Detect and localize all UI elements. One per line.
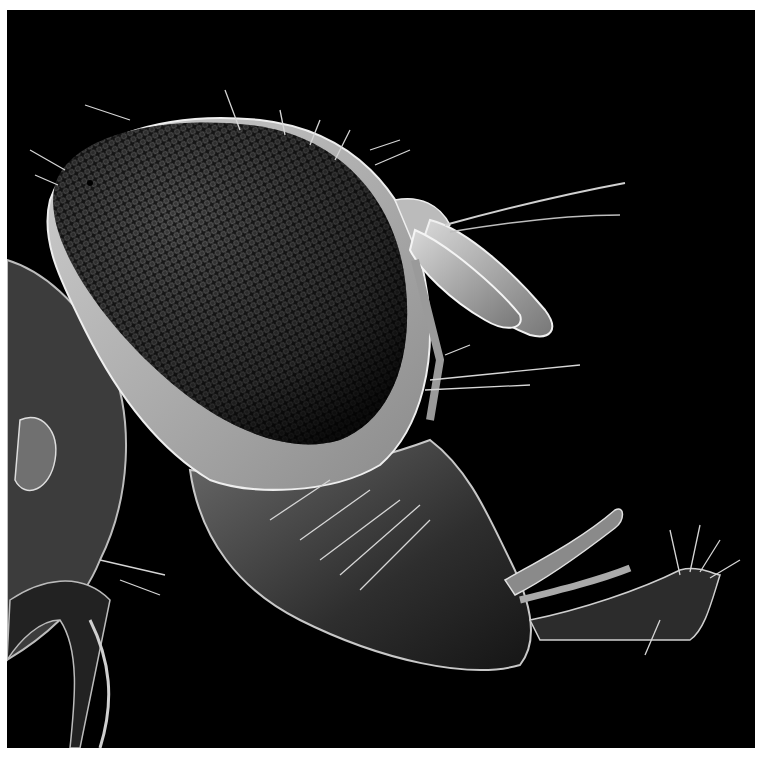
- antennae: [395, 183, 625, 420]
- micrograph-frame: [7, 10, 755, 748]
- mouthparts: [505, 509, 720, 640]
- fly-head-micrograph: [7, 10, 755, 748]
